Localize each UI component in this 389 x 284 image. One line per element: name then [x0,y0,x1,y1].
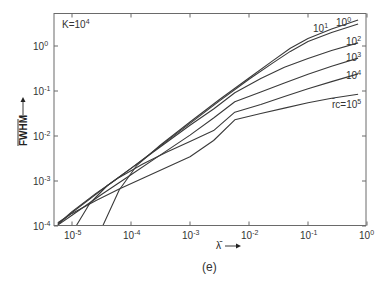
curve-rc-10-3 [58,58,358,225]
curve-rc-10-4 [58,74,358,224]
data-curves [58,20,358,226]
y-axis-label: FWHM [18,97,29,146]
y-tick-label: 100 [33,40,48,52]
x-label-arrow-icon [236,244,241,249]
curve-rc-10-0 [103,20,358,226]
plot-frame [54,14,366,226]
y-tick-label: 10-1 [33,85,50,97]
curve-label: 103 [346,51,361,63]
k-annotation: K=104 [62,18,90,30]
svg-text:FWHM: FWHM [18,115,29,146]
curve-label: 101 [313,22,328,34]
curve-label: 100 [336,16,351,28]
curve-label: 104 [346,69,361,81]
curve-labels: 100101102103104r̄c=105 [313,16,361,110]
y-tick-label: 10-4 [33,220,50,232]
x-axis-ticks: 10-510-410-310-210-1100 [64,14,374,241]
x-tick-label: 10-1 [300,229,317,241]
figure-caption: (e) [202,260,217,274]
x-tick-label: 100 [359,229,374,241]
svg-text:λ̄: λ̄ [216,240,223,251]
curve-label: r̄c=105 [331,98,361,110]
x-tick-label: 10-4 [123,229,140,241]
curve-rc-10-1 [76,24,358,226]
curve-label: 102 [346,35,361,47]
y-tick-label: 10-3 [33,175,50,187]
y-tick-label: 10-2 [33,130,50,142]
fwhm-vs-lambda-chart: 10-510-410-310-210-1100 10010-110-210-31… [0,0,389,284]
x-axis-label: λ̄ [216,240,241,251]
y-label-arrow-icon [21,97,26,102]
x-tick-label: 10-3 [182,229,199,241]
x-tick-label: 10-2 [241,229,258,241]
x-tick-label: 10-5 [64,229,81,241]
